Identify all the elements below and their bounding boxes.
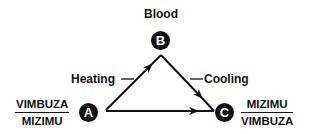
arrow-cooling — [161, 55, 202, 98]
fraction-c-numerator: MIZIMU — [241, 97, 293, 113]
node-a: A — [79, 103, 98, 122]
arrow-heating — [106, 64, 152, 110]
cooling-label: Cooling — [204, 72, 249, 86]
fraction-c: MIZIMU VIMBUZA — [241, 97, 293, 128]
fraction-a-numerator: VIMBUZA — [15, 97, 69, 113]
fraction-a-denominator: MIZIMU — [15, 113, 69, 128]
node-c: C — [215, 103, 234, 122]
node-b: B — [151, 31, 170, 50]
fraction-c-denominator: VIMBUZA — [241, 113, 293, 128]
fraction-a: VIMBUZA MIZIMU — [15, 97, 69, 128]
blood-label: Blood — [144, 7, 178, 21]
heating-label: Heating — [71, 72, 115, 86]
